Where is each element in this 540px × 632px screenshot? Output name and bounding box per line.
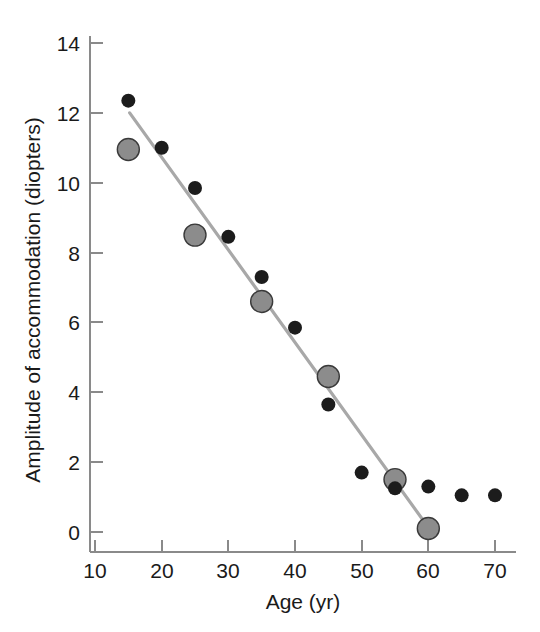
chart-figure: 14 12 10 8 6 4 2 0 10 20 30 40 50 60 70 … bbox=[0, 0, 540, 632]
data-point bbox=[184, 224, 206, 246]
data-point bbox=[288, 321, 302, 335]
individual-measurements-series bbox=[121, 94, 502, 503]
data-point bbox=[121, 94, 135, 108]
data-point bbox=[388, 481, 402, 495]
x-tick-label-50: 50 bbox=[350, 559, 373, 582]
data-point bbox=[155, 141, 169, 155]
data-point bbox=[317, 366, 339, 388]
x-tick-label-30: 30 bbox=[216, 559, 239, 582]
x-tick-label-40: 40 bbox=[283, 559, 306, 582]
data-point bbox=[188, 181, 202, 195]
data-point bbox=[321, 398, 335, 412]
y-tick-label-8: 8 bbox=[68, 242, 80, 265]
x-tick-label-60: 60 bbox=[416, 559, 439, 582]
y-tick-label-4: 4 bbox=[68, 381, 80, 404]
y-tick-label-2: 2 bbox=[68, 451, 80, 474]
y-tick-label-14: 14 bbox=[57, 32, 81, 55]
x-axis-title: Age (yr) bbox=[266, 590, 341, 613]
y-axis-title: Amplitude of accommodation (diopters) bbox=[21, 117, 44, 482]
data-point bbox=[455, 488, 469, 502]
data-point bbox=[421, 480, 435, 494]
x-tick-label-10: 10 bbox=[83, 559, 106, 582]
scatter-plot-svg: 14 12 10 8 6 4 2 0 10 20 30 40 50 60 70 … bbox=[0, 0, 540, 632]
y-axis-ticks bbox=[90, 43, 103, 532]
y-tick-label-6: 6 bbox=[68, 311, 80, 334]
mean-values-series bbox=[117, 139, 439, 540]
x-tick-label-70: 70 bbox=[483, 559, 506, 582]
data-point bbox=[355, 466, 369, 480]
y-tick-label-10: 10 bbox=[57, 172, 80, 195]
y-tick-label-0: 0 bbox=[68, 521, 80, 544]
data-point bbox=[417, 518, 439, 540]
data-point bbox=[251, 290, 273, 312]
data-point bbox=[221, 230, 235, 244]
x-axis-ticks bbox=[95, 540, 495, 552]
regression-line bbox=[130, 113, 431, 530]
data-point bbox=[488, 488, 502, 502]
data-point bbox=[117, 139, 139, 161]
x-tick-label-20: 20 bbox=[150, 559, 173, 582]
data-point bbox=[255, 270, 269, 284]
y-tick-label-12: 12 bbox=[57, 102, 80, 125]
